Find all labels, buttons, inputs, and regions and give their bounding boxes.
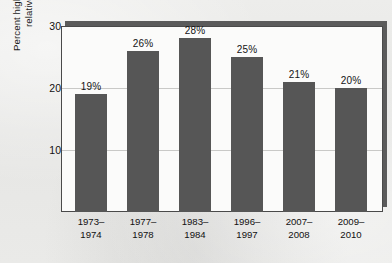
bar-rect-2009-2010[interactable] (335, 88, 367, 212)
bar-group-1973-1974[interactable]: 19% (75, 26, 107, 212)
bar-group-1977-1978[interactable]: 26% (127, 26, 159, 212)
bar-group-2009-2010[interactable]: 20% (335, 26, 367, 212)
x-tick-1983-1984-line-2: 1984 (169, 229, 221, 242)
bar-chart-figure: Percent higher wages of private union wo… (0, 0, 392, 263)
bar-rect-1996-1997[interactable] (231, 57, 263, 212)
x-tick-2009-2010-line-2: 2010 (325, 229, 377, 242)
x-tick-1977-1978-line-2: 1978 (117, 229, 169, 242)
bar-value-1983-1984: 28% (169, 25, 221, 36)
bar-rect-1977-1978[interactable] (127, 51, 159, 212)
bars-layer: 19% 26% 28% 25% 21% 20% (61, 26, 383, 212)
x-tick-1996-1997-line-2: 1997 (221, 229, 273, 242)
bar-value-1973-1974: 19% (65, 81, 117, 92)
bar-value-1977-1978: 26% (117, 38, 169, 49)
x-tick-1996-1997: 1996– 1997 (221, 216, 273, 241)
x-tick-1983-1984: 1983– 1984 (169, 216, 221, 241)
bar-group-1983-1984[interactable]: 28% (179, 26, 211, 212)
bar-group-2007-2008[interactable]: 21% (283, 26, 315, 212)
x-axis: 1973– 1974 1977– 1978 1983– 1984 1996– 1… (61, 216, 383, 254)
y-axis: 30 20 10 (27, 26, 61, 212)
x-tick-2007-2008-line-2: 2008 (273, 229, 325, 242)
y-tick-label-30: 30 (35, 20, 61, 32)
bar-rect-1983-1984[interactable] (179, 38, 211, 212)
bar-value-2009-2010: 20% (325, 75, 377, 86)
bar-rect-2007-2008[interactable] (283, 82, 315, 212)
x-tick-1983-1984-line-1: 1983– (169, 216, 221, 229)
y-axis-title-line-1: Percent higher wages of private union wo… (11, 0, 23, 51)
y-tick-label-10: 10 (35, 144, 61, 156)
bar-value-1996-1997: 25% (221, 44, 273, 55)
bar-rect-1973-1974[interactable] (75, 94, 107, 212)
x-tick-1977-1978-line-1: 1977– (117, 216, 169, 229)
x-tick-2009-2010-line-1: 2009– (325, 216, 377, 229)
x-tick-1973-1974: 1973– 1974 (65, 216, 117, 241)
x-tick-2007-2008: 2007– 2008 (273, 216, 325, 241)
bar-group-1996-1997[interactable]: 25% (231, 26, 263, 212)
x-tick-1996-1997-line-1: 1996– (221, 216, 273, 229)
x-tick-2007-2008-line-1: 2007– (273, 216, 325, 229)
x-tick-1977-1978: 1977– 1978 (117, 216, 169, 241)
x-tick-2009-2010: 2009– 2010 (325, 216, 377, 241)
x-tick-1973-1974-line-1: 1973– (65, 216, 117, 229)
y-axis-title-line-2: relative to similar nonunion workers (23, 0, 35, 27)
bar-value-2007-2008: 21% (273, 69, 325, 80)
y-tick-label-20: 20 (35, 82, 61, 94)
x-tick-1973-1974-line-2: 1974 (65, 229, 117, 242)
